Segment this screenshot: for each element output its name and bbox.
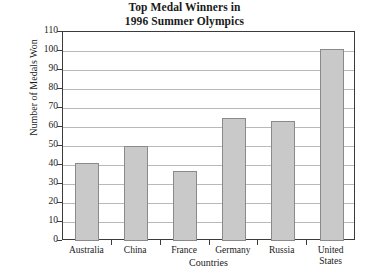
bar (222, 118, 246, 242)
y-axis-tick-label: 90 (18, 64, 58, 74)
gridline (63, 70, 354, 71)
y-axis-tick-mark (57, 240, 62, 241)
bar (124, 146, 148, 241)
bar (173, 171, 197, 241)
y-axis-tick-label: 70 (18, 102, 58, 112)
bar-chart: Top Medal Winners in 1996 Summer Olympic… (0, 0, 369, 279)
bar (75, 163, 99, 241)
x-axis-tick-label-line: Germany (209, 245, 258, 256)
bar (271, 121, 295, 241)
gridline (63, 184, 354, 185)
x-axis-tick-label-line: United (306, 245, 355, 256)
x-axis-tick-label: China (111, 245, 160, 256)
chart-title: Top Medal Winners in 1996 Summer Olympic… (0, 1, 369, 28)
chart-title-line-1: Top Medal Winners in (0, 1, 369, 15)
y-axis-tick-label: 110 (18, 26, 58, 36)
y-axis-tick-label: 80 (18, 83, 58, 93)
gridline (63, 203, 354, 204)
plot-area (62, 31, 355, 240)
x-axis-tick-label: Australia (62, 245, 111, 256)
gridline (63, 165, 354, 166)
bar (320, 49, 344, 241)
y-axis-tick-label: 30 (18, 178, 58, 188)
y-axis-tick-label: 100 (18, 45, 58, 55)
y-axis-tick-label: 40 (18, 159, 58, 169)
gridline (63, 127, 354, 128)
y-axis-tick-label: 50 (18, 140, 58, 150)
gridline (63, 146, 354, 147)
gridline (63, 108, 354, 109)
x-axis-tick-label: France (160, 245, 209, 256)
x-axis-tick-label: Germany (209, 245, 258, 256)
x-axis-tick-label-line: China (111, 245, 160, 256)
gridline (63, 51, 354, 52)
x-axis-tick-label: Russia (257, 245, 306, 256)
gridline (63, 222, 354, 223)
y-axis-tick-label: 20 (18, 197, 58, 207)
x-axis-tick-label-line: France (160, 245, 209, 256)
x-axis-title: Countries (62, 257, 355, 268)
x-axis-tick-label-line: Russia (257, 245, 306, 256)
y-axis-tick-label: 0 (18, 235, 58, 245)
y-axis-tick-label: 60 (18, 121, 58, 131)
y-axis-tick-label: 10 (18, 216, 58, 226)
gridline (63, 89, 354, 90)
x-axis-tick-label-line: Australia (62, 245, 111, 256)
